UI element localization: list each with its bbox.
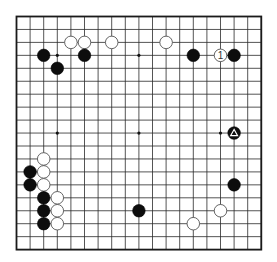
black-stone[interactable] xyxy=(78,49,91,62)
white-stone[interactable] xyxy=(51,217,64,230)
white-stone[interactable] xyxy=(51,192,64,205)
white-stone[interactable] xyxy=(214,204,227,217)
white-stone[interactable] xyxy=(187,217,200,230)
black-stone[interactable] xyxy=(37,192,50,205)
black-stone[interactable] xyxy=(228,179,241,192)
white-stone[interactable] xyxy=(51,204,64,217)
star-point xyxy=(56,54,59,57)
star-point xyxy=(137,54,140,57)
white-stone[interactable] xyxy=(37,166,50,179)
white-stone[interactable] xyxy=(78,36,91,49)
black-stone[interactable] xyxy=(228,127,241,140)
star-point xyxy=(56,131,59,134)
go-board-canvas[interactable]: 1 xyxy=(0,0,277,262)
black-stone[interactable] xyxy=(24,166,37,179)
black-stone[interactable] xyxy=(37,204,50,217)
white-stone[interactable] xyxy=(37,153,50,166)
white-stone[interactable]: 1 xyxy=(214,49,227,62)
go-board[interactable]: 1 xyxy=(0,0,277,262)
black-stone[interactable] xyxy=(133,204,146,217)
star-point xyxy=(137,131,140,134)
black-stone[interactable] xyxy=(187,49,200,62)
move-number-label: 1 xyxy=(218,50,224,61)
white-stone[interactable] xyxy=(160,36,173,49)
white-stone[interactable] xyxy=(65,36,78,49)
white-stone[interactable] xyxy=(105,36,118,49)
white-stone[interactable] xyxy=(37,179,50,192)
black-stone[interactable] xyxy=(37,217,50,230)
star-point xyxy=(219,131,222,134)
black-stone[interactable] xyxy=(37,49,50,62)
black-stone[interactable] xyxy=(51,62,64,75)
black-stone[interactable] xyxy=(228,49,241,62)
black-stone[interactable] xyxy=(24,179,37,192)
